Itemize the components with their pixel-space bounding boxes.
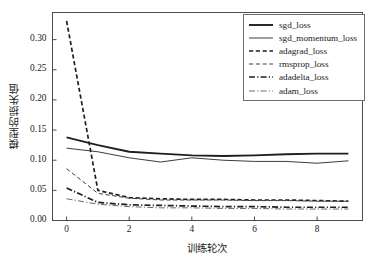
series-line-rmsprop-loss <box>67 169 349 202</box>
y-tick-label: 0.25 <box>13 63 47 73</box>
legend-label-sgd-momentum-loss: sgd_momentum_loss <box>279 33 357 43</box>
legend-item-adadelta-loss: adadelta_loss <box>248 71 360 84</box>
legend: sgd_loss sgd_momentum_loss adagrad_loss … <box>243 14 365 101</box>
y-tick-label: 0.00 <box>13 214 47 224</box>
y-tick-label: 0.30 <box>13 33 47 43</box>
series-line-adadelta-loss <box>67 188 349 207</box>
legend-item-rmsprop-loss: rmsprop_loss <box>248 58 360 71</box>
legend-item-adam-loss: adam_loss <box>248 84 360 97</box>
legend-label-rmsprop-loss: rmsprop_loss <box>279 59 329 69</box>
series-line-sgd-loss <box>67 137 349 156</box>
legend-swatch-adagrad-loss <box>248 45 274 57</box>
legend-swatch-adam-loss <box>248 85 274 97</box>
y-tick-label: 0.05 <box>13 184 47 194</box>
legend-swatch-sgd-loss <box>248 19 274 31</box>
y-tick-label: 0.10 <box>13 154 47 164</box>
x-tick-label: 2 <box>119 224 139 234</box>
x-tick-label: 6 <box>244 224 264 234</box>
legend-swatch-rmsprop-loss <box>248 58 274 70</box>
legend-swatch-sgd-momentum-loss <box>248 32 274 44</box>
legend-swatch-adadelta-loss <box>248 71 274 83</box>
y-tick-label: 0.20 <box>13 93 47 103</box>
legend-label-adagrad-loss: adagrad_loss <box>279 46 327 56</box>
legend-label-adam-loss: adam_loss <box>279 86 318 96</box>
loss-curve-figure: 模型的损失值 训练轮次 sgd_loss sgd_momentum_loss a… <box>0 0 377 266</box>
x-tick-label: 8 <box>307 224 327 234</box>
x-tick-label: 4 <box>182 224 202 234</box>
legend-item-adagrad-loss: adagrad_loss <box>248 44 360 57</box>
legend-label-sgd-loss: sgd_loss <box>279 20 311 30</box>
legend-label-adadelta-loss: adadelta_loss <box>279 72 329 82</box>
y-tick-label: 0.15 <box>13 124 47 134</box>
legend-item-sgd-loss: sgd_loss <box>248 18 360 31</box>
x-tick-label: 0 <box>57 224 77 234</box>
x-axis-label: 训练轮次 <box>52 240 362 255</box>
legend-item-sgd-momentum-loss: sgd_momentum_loss <box>248 31 360 44</box>
